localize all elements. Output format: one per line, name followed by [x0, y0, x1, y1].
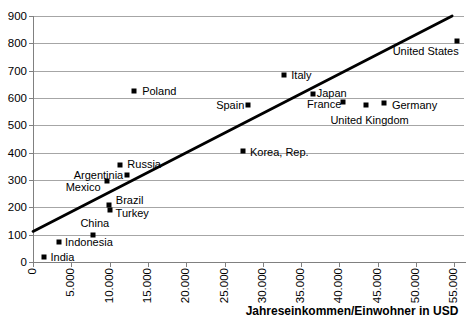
data-point-label-korea-rep-: Korea, Rep. — [250, 146, 309, 159]
data-point-label-india: India — [50, 250, 74, 263]
data-point-label-russia: Russia — [127, 157, 161, 170]
data-point-spain — [246, 102, 251, 107]
data-point-united-states — [454, 38, 459, 43]
data-point-italy — [282, 72, 287, 77]
data-point-label-united-states: United States — [393, 45, 459, 58]
data-point-india — [42, 254, 47, 259]
data-point-label-spain: Spain — [216, 98, 244, 111]
data-point-turkey — [107, 208, 112, 213]
data-point-label-poland: Poland — [142, 85, 176, 98]
data-point-label-argentinia: Argentinia — [74, 168, 124, 181]
data-point-label-mexico: Mexico — [66, 181, 101, 194]
x-axis-title: Jahreseinkommen/Einwohner in USD — [240, 304, 464, 318]
scatter-chart: 010020030040050060070080090005.00010.000… — [0, 0, 469, 321]
data-point-indonesia — [57, 239, 62, 244]
data-point-brazil — [106, 202, 111, 207]
data-point-label-france: France — [307, 98, 341, 111]
data-point-label-germany: Germany — [392, 99, 437, 112]
data-point-russia — [118, 162, 123, 167]
data-point-japan — [310, 91, 315, 96]
data-point-label-italy: Italy — [291, 68, 311, 81]
data-point-china — [90, 232, 95, 237]
data-point-argentinia — [125, 172, 130, 177]
data-point-label-indonesia: Indonesia — [65, 235, 113, 248]
data-point-label-brazil: Brazil — [116, 193, 144, 206]
data-point-germany — [381, 101, 386, 106]
data-point-label-china: China — [80, 217, 109, 230]
data-point-france — [341, 100, 346, 105]
data-point-united-kingdom — [363, 102, 368, 107]
data-point-poland — [132, 89, 137, 94]
data-point-label-united-kingdom: United Kingdom — [330, 114, 408, 127]
data-point-korea-rep- — [240, 149, 245, 154]
data-point-label-turkey: Turkey — [116, 207, 149, 220]
